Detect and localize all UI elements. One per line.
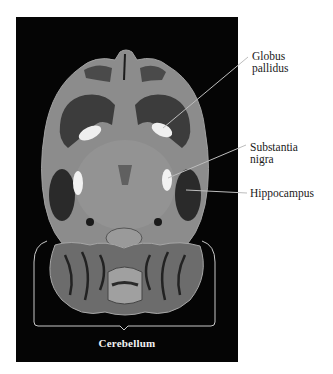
label-globus-pallidus: Globus pallidus [252, 50, 288, 74]
brain-mri-figure: Globus pallidus Substantia nigra Hippoca… [0, 0, 333, 374]
label-cerebellum: Cerebellum [16, 337, 238, 349]
label-hippocampus: Hippocampus [250, 187, 314, 199]
cerebellum [50, 243, 203, 316]
label-substantia-nigra: Substantia nigra [250, 141, 298, 165]
cerebrum [42, 50, 209, 250]
